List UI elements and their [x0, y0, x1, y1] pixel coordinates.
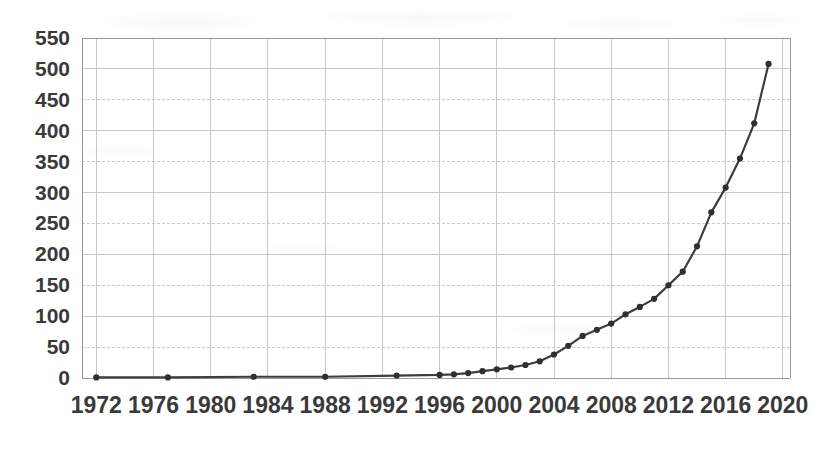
x-axis-tick-label: 2012: [643, 392, 694, 418]
data-point-marker: [680, 269, 686, 275]
chart-container: 0501001502002503003504004505005501972197…: [0, 0, 838, 450]
x-axis-tick-label: 2008: [586, 392, 637, 418]
y-axis-tick-label: 350: [35, 150, 70, 173]
data-point-marker: [322, 374, 328, 380]
data-point-marker: [622, 311, 628, 317]
data-point-marker: [251, 374, 257, 380]
y-axis-tick-label: 450: [35, 88, 70, 111]
data-point-marker: [594, 327, 600, 333]
x-axis-tick-label: 2004: [528, 392, 579, 418]
x-axis-tick-label: 2020: [757, 392, 808, 418]
data-series-line: [96, 64, 768, 377]
data-point-marker: [165, 374, 171, 380]
y-axis-tick-label: 0: [58, 366, 70, 389]
x-axis-tick-label: 1992: [357, 392, 408, 418]
y-axis-tick-label: 50: [47, 335, 70, 358]
data-point-marker: [508, 364, 514, 370]
data-point-marker: [565, 343, 571, 349]
x-axis-tick-label: 1984: [242, 392, 293, 418]
y-axis-tick-label: 400: [35, 119, 70, 142]
data-point-marker: [537, 358, 543, 364]
data-point-marker: [694, 243, 700, 249]
data-point-marker: [723, 185, 729, 191]
x-axis-tick-label: 1972: [71, 392, 122, 418]
data-point-marker: [580, 333, 586, 339]
data-point-marker: [522, 362, 528, 368]
line-chart: 0501001502002503003504004505005501972197…: [0, 0, 838, 450]
data-point-marker: [708, 209, 714, 215]
data-point-marker: [551, 351, 557, 357]
data-point-marker: [465, 370, 471, 376]
y-axis-tick-label: 250: [35, 211, 70, 234]
data-point-marker: [494, 366, 500, 372]
x-axis-tick-label: 1996: [414, 392, 465, 418]
x-axis-tick-label: 2000: [471, 392, 522, 418]
x-axis-tick-label: 2016: [700, 392, 751, 418]
data-point-marker: [608, 321, 614, 327]
data-point-marker: [479, 368, 485, 374]
data-point-marker: [751, 120, 757, 126]
y-axis-tick-label: 200: [35, 242, 70, 265]
data-point-marker: [737, 155, 743, 161]
data-point-marker: [651, 296, 657, 302]
data-point-marker: [436, 372, 442, 378]
x-axis-tick-label: 1976: [128, 392, 179, 418]
data-point-marker: [765, 61, 771, 67]
y-axis-tick-label: 300: [35, 181, 70, 204]
y-axis-tick-label: 150: [35, 273, 70, 296]
y-axis-tick-label: 500: [35, 57, 70, 80]
data-point-marker: [394, 372, 400, 378]
x-axis-tick-label: 1988: [300, 392, 351, 418]
data-point-marker: [637, 304, 643, 310]
y-axis-tick-label: 100: [35, 304, 70, 327]
y-axis-tick-label: 550: [35, 26, 70, 49]
x-axis-tick-label: 1980: [185, 392, 236, 418]
data-point-marker: [451, 371, 457, 377]
data-point-marker: [93, 374, 99, 380]
data-point-marker: [665, 282, 671, 288]
